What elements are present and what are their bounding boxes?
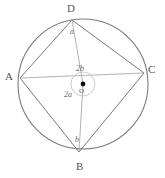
center-point-label: O (79, 88, 84, 95)
vertex-label-c: C (148, 64, 155, 75)
central-angle-label-upper: 2b (76, 65, 84, 73)
vertex-label-b: B (76, 161, 83, 172)
geometry-figure: D A C B a b 2b 2a O (0, 0, 165, 178)
vertex-label-a: A (5, 71, 13, 82)
chord-CB (79, 73, 144, 152)
central-angle-label-lower: 2a (64, 91, 72, 99)
vertex-label-d: D (67, 3, 75, 14)
inscribed-angle-label-at-d: a (70, 28, 74, 36)
inscribed-angle-label-at-b: b (75, 136, 79, 144)
center-point-dot (81, 82, 86, 87)
